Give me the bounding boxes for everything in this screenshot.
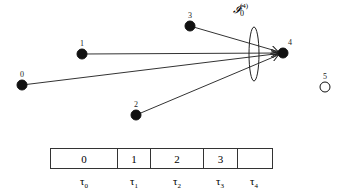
node-label-0: 0 xyxy=(20,71,24,79)
node-1 xyxy=(77,49,87,59)
interference-set-label: 𝓘0(4) xyxy=(233,2,248,18)
set-superscript: (4) xyxy=(240,2,248,10)
node-5 xyxy=(320,82,330,92)
tau-label-2: τ2 xyxy=(173,175,181,190)
tau-label-0: τ0 xyxy=(80,175,88,190)
nodes xyxy=(17,21,330,120)
node-4 xyxy=(278,48,288,58)
network-graph xyxy=(0,0,348,140)
slot-cell-4 xyxy=(238,149,272,168)
node-label-1: 1 xyxy=(80,40,84,48)
set-subscript: 0 xyxy=(240,9,244,18)
tau-label-3: τ3 xyxy=(216,175,224,190)
node-label-4: 4 xyxy=(288,39,292,47)
edge-3-4 xyxy=(190,26,278,52)
node-label-5: 5 xyxy=(323,73,327,81)
node-label-2: 2 xyxy=(134,101,138,109)
set-symbol: 𝓘 xyxy=(233,3,240,15)
edge-0-4 xyxy=(22,54,278,85)
slot-cell-1: 1 xyxy=(118,149,151,168)
tau-label-4: τ4 xyxy=(250,175,258,190)
tau-label-1: τ1 xyxy=(130,175,138,190)
node-label-3: 3 xyxy=(188,12,192,20)
slot-cell-3: 3 xyxy=(204,149,238,168)
edges xyxy=(22,26,278,115)
slot-schedule-table: 0123 xyxy=(50,148,273,169)
edge-2-4 xyxy=(136,55,278,115)
node-3 xyxy=(185,21,195,31)
interference-set-ellipse xyxy=(249,27,259,81)
slot-cell-2: 2 xyxy=(151,149,204,168)
slot-cell-0: 0 xyxy=(51,149,118,168)
node-0 xyxy=(17,80,27,90)
node-2 xyxy=(131,110,141,120)
